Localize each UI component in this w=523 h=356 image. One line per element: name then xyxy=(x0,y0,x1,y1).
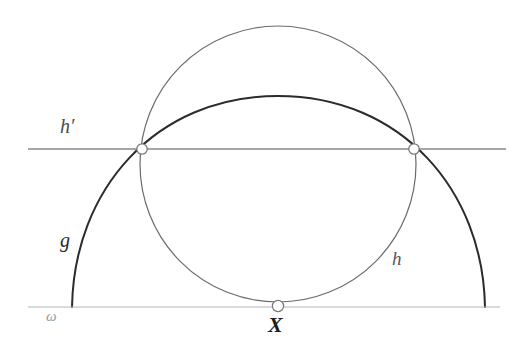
label-omega: ω xyxy=(46,309,57,324)
geometry-figure: h′ g h ω X xyxy=(0,0,523,356)
label-h-prime: h′ xyxy=(60,116,74,136)
point-intersection-right xyxy=(409,144,419,154)
point-intersection-left xyxy=(137,144,147,154)
arc-g xyxy=(72,96,485,307)
figure-canvas xyxy=(0,0,523,356)
label-h: h xyxy=(392,249,402,268)
circle-h xyxy=(140,26,416,302)
point-tangency-x xyxy=(272,300,283,311)
label-x: X xyxy=(268,314,283,336)
label-g: g xyxy=(60,230,70,250)
